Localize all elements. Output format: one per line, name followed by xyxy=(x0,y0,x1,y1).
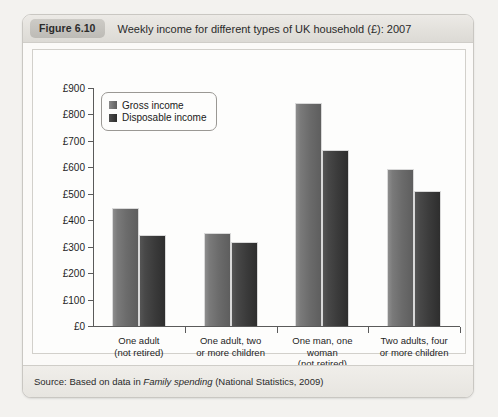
category-label: Two adults, four or more children xyxy=(368,335,460,358)
y-tick xyxy=(88,220,93,221)
y-tick xyxy=(88,167,93,168)
y-tick-label: £800 xyxy=(39,109,85,120)
legend-label-disposable: Disposable income xyxy=(122,112,207,123)
legend-swatch-disposable-icon xyxy=(109,114,117,122)
y-tick xyxy=(88,194,93,195)
figure-card: Figure 6.10 Weekly income for different … xyxy=(22,14,474,398)
y-axis-line xyxy=(93,88,94,327)
figure-source-text: Source: Based on data in Family spending… xyxy=(34,376,323,387)
chart-legend: Gross income Disposable income xyxy=(101,92,217,131)
figure-source-bar: Source: Based on data in Family spending… xyxy=(23,365,473,397)
legend-item-gross: Gross income xyxy=(109,100,207,111)
y-tick-label: £900 xyxy=(39,83,85,94)
y-tick-label: £200 xyxy=(39,268,85,279)
y-tick xyxy=(88,247,93,248)
category-label: One adult, two or more children xyxy=(185,335,277,358)
figure-title-bar: Figure 6.10 Weekly income for different … xyxy=(23,15,473,43)
figure-title: Weekly income for different types of UK … xyxy=(118,23,412,35)
y-tick-label: £0 xyxy=(39,321,85,332)
y-tick-label: £400 xyxy=(39,215,85,226)
y-tick-label: £100 xyxy=(39,294,85,305)
bar-gross xyxy=(295,103,322,326)
category-label: One adult (not retired) xyxy=(93,335,185,358)
y-tick xyxy=(88,141,93,142)
category-tick xyxy=(368,327,369,333)
bar-disposable xyxy=(231,242,258,326)
y-tick-label: £500 xyxy=(39,188,85,199)
y-tick-label: £600 xyxy=(39,162,85,173)
bar-gross xyxy=(204,233,231,326)
bar-disposable xyxy=(322,150,349,326)
legend-swatch-gross-icon xyxy=(109,101,117,109)
bar-disposable xyxy=(139,235,166,326)
y-tick xyxy=(88,88,93,89)
bar-gross xyxy=(387,169,414,326)
y-tick xyxy=(88,300,93,301)
category-tick xyxy=(460,327,461,333)
bar-disposable xyxy=(414,191,441,326)
y-tick-label: £300 xyxy=(39,241,85,252)
chart-canvas: £900£800£700£600£500£400£300£200£100£0 O… xyxy=(33,50,465,353)
category-tick xyxy=(185,327,186,333)
figure-number-badge: Figure 6.10 xyxy=(30,19,105,38)
legend-label-gross: Gross income xyxy=(122,100,184,111)
chart-plot-area: £900£800£700£600£500£400£300£200£100£0 O… xyxy=(32,49,466,354)
bar-gross xyxy=(112,208,139,326)
y-tick xyxy=(88,273,93,274)
y-tick xyxy=(88,114,93,115)
y-tick xyxy=(88,326,93,327)
y-tick-label: £700 xyxy=(39,135,85,146)
legend-item-disposable: Disposable income xyxy=(109,112,207,123)
category-tick xyxy=(277,327,278,333)
